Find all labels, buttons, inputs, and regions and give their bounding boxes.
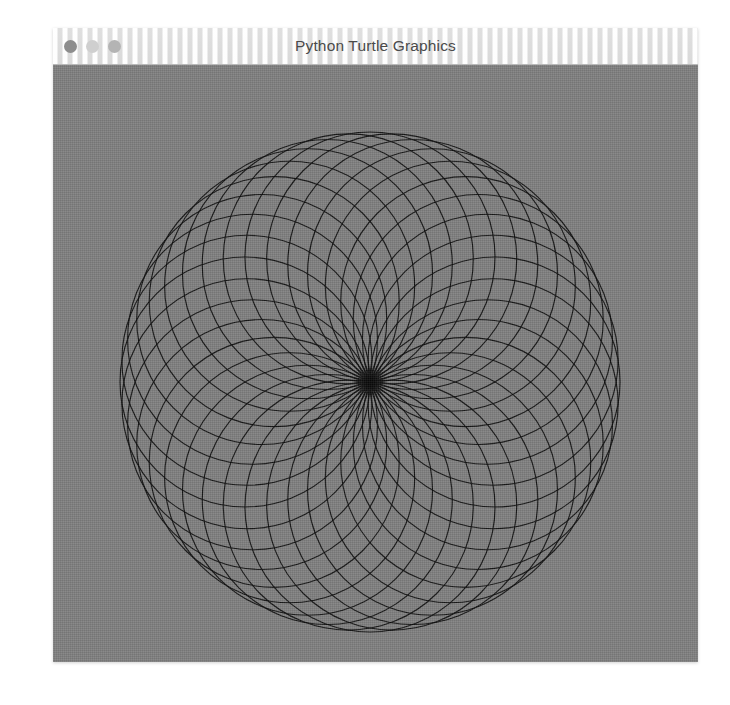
rosette-circle-group xyxy=(120,132,620,632)
window-title: Python Turtle Graphics xyxy=(295,37,456,55)
close-button-icon[interactable] xyxy=(64,40,77,53)
window-title-bar[interactable]: Python Turtle Graphics xyxy=(53,28,698,65)
rosette-spirograph-drawing xyxy=(53,65,698,662)
zoom-button-icon[interactable] xyxy=(108,40,121,53)
turtle-drawing-canvas[interactable] xyxy=(53,65,698,662)
turtle-graphics-window: Python Turtle Graphics xyxy=(53,28,698,662)
window-controls-group xyxy=(64,28,121,64)
minimize-button-icon[interactable] xyxy=(86,40,99,53)
